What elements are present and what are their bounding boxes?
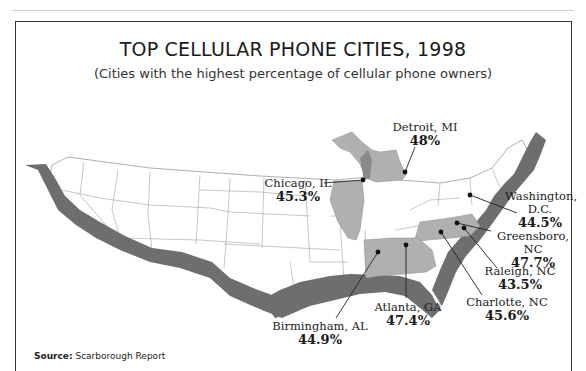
label-washington-dc: Washington, D.C. 44.5%: [505, 190, 575, 229]
source-label: Source:: [34, 351, 73, 361]
label-detroit: Detroit, MI 48%: [390, 121, 460, 147]
label-raleigh: Raleigh, NC 43.5%: [480, 265, 560, 291]
label-chicago: Chicago, IL 45.3%: [258, 177, 338, 203]
state-alabama-georgia: [364, 238, 436, 278]
label-atlanta: Atlanta, GA 47.4%: [368, 301, 448, 327]
label-charlotte: Charlotte, NC 45.6%: [462, 296, 552, 322]
label-birmingham: Birmingham, AL 44.9%: [270, 320, 370, 346]
source-note: Source: Scarborough Report: [34, 351, 165, 361]
source-value: Scarborough Report: [75, 351, 165, 361]
